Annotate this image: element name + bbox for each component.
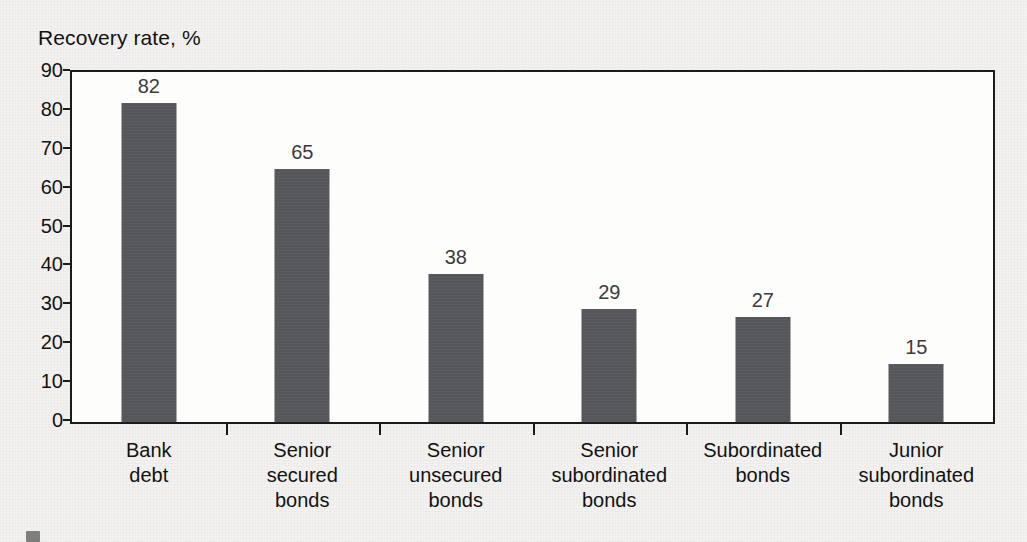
y-axis-tick: 30 <box>41 295 70 311</box>
x-axis-category-label-line: Senior <box>533 438 687 463</box>
y-axis-tick-mark <box>63 302 70 304</box>
x-axis-tick-mark <box>226 424 228 435</box>
bar-group: 38 <box>379 72 533 422</box>
x-axis-category-label-line: Senior <box>379 438 533 463</box>
x-axis-category-label-line: bonds <box>379 488 533 513</box>
scan-artifact-mark <box>26 531 40 542</box>
x-axis-category-label: Juniorsubordinatedbonds <box>840 438 994 513</box>
x-axis-category-label-line: bonds <box>226 488 380 513</box>
bar-value-label: 15 <box>905 337 927 357</box>
x-axis-category-label-line: Senior <box>226 438 380 463</box>
bar <box>121 103 176 422</box>
x-axis-labels: BankdebtSeniorsecuredbondsSeniorunsecure… <box>70 438 995 533</box>
x-axis-category-label: Bankdebt <box>72 438 226 488</box>
x-axis-category-label-line: Subordinated <box>686 438 840 463</box>
bar-group: 65 <box>226 72 380 422</box>
bar-value-label: 38 <box>445 247 467 267</box>
x-axis-category-label-line: unsecured <box>379 463 533 488</box>
x-axis-category-label-line: subordinated <box>840 463 994 488</box>
bar-group: 82 <box>72 72 226 422</box>
x-axis-category-label-line: subordinated <box>533 463 687 488</box>
bar-value-label: 65 <box>291 142 313 162</box>
x-axis-category-label: Seniorsecuredbonds <box>226 438 380 513</box>
y-axis: 9080706050403020100 <box>0 62 70 432</box>
bar-value-label: 27 <box>752 290 774 310</box>
y-axis-tick-mark <box>63 69 70 71</box>
x-axis-category-label-line: Bank <box>72 438 226 463</box>
y-axis-tick: 0 <box>52 412 70 428</box>
y-axis-tick-mark <box>63 419 70 421</box>
x-axis-category-label-line: debt <box>72 463 226 488</box>
bars-layer: 826538292715 <box>72 72 993 422</box>
bar-value-label: 82 <box>138 76 160 96</box>
x-axis-ticks <box>70 424 995 436</box>
y-axis-tick: 80 <box>41 101 70 117</box>
y-axis-tick-mark <box>63 147 70 149</box>
bar <box>889 364 944 422</box>
y-axis-tick: 90 <box>41 62 70 78</box>
x-axis-category-label: Subordinatedbonds <box>686 438 840 488</box>
x-axis-category-label-line: bonds <box>533 488 687 513</box>
y-axis-tick: 50 <box>41 218 70 234</box>
y-axis-tick: 10 <box>41 373 70 389</box>
bar-group: 27 <box>686 72 840 422</box>
y-axis-tick: 70 <box>41 140 70 156</box>
y-axis-tick-mark <box>63 341 70 343</box>
x-axis-category-label: Seniorunsecuredbonds <box>379 438 533 513</box>
y-axis-tick-mark <box>63 380 70 382</box>
y-axis-tick-mark <box>63 225 70 227</box>
x-axis-tick-mark <box>686 424 688 435</box>
y-axis-tick-mark <box>63 263 70 265</box>
x-axis-tick-mark <box>840 424 842 435</box>
y-axis-tick: 40 <box>41 256 70 272</box>
x-axis-category-label-line: secured <box>226 463 380 488</box>
bar-value-label: 29 <box>598 282 620 302</box>
chart-figure: Recovery rate, % 9080706050403020100 826… <box>0 0 1027 542</box>
y-axis-tick-mark <box>63 186 70 188</box>
bar <box>735 317 790 422</box>
x-axis-category-label-line: Junior <box>840 438 994 463</box>
x-axis-category-label: Seniorsubordinatedbonds <box>533 438 687 513</box>
bar-group: 29 <box>533 72 687 422</box>
bar <box>275 169 330 422</box>
bar <box>582 309 637 422</box>
bar <box>428 274 483 422</box>
x-axis-category-label-line: bonds <box>840 488 994 513</box>
x-axis-tick-mark <box>379 424 381 435</box>
bar-group: 15 <box>840 72 994 422</box>
y-axis-tick: 20 <box>41 334 70 350</box>
chart-title: Recovery rate, % <box>38 26 201 50</box>
y-axis-tick-mark <box>63 108 70 110</box>
x-axis-tick-mark <box>533 424 535 435</box>
x-axis-category-label-line: bonds <box>686 463 840 488</box>
y-axis-tick: 60 <box>41 179 70 195</box>
